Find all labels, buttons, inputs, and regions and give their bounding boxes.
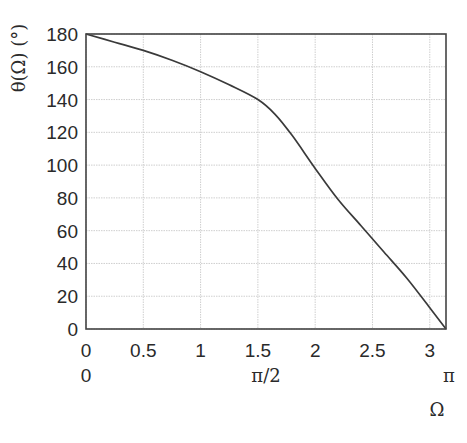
y-tick-label: 60	[57, 221, 78, 242]
y-tick-label: 40	[57, 253, 78, 274]
x-tick-label: 0.5	[130, 340, 156, 361]
x-axis-label: Ω	[430, 399, 445, 420]
x-tick-label: 1	[195, 340, 206, 361]
x-tick-label: 2	[310, 340, 321, 361]
y-tick-label: 0	[67, 319, 78, 340]
y-axis-ticks: 020406080100120140160180	[46, 24, 78, 340]
y-axis-label: θ(Ω) (°)	[8, 24, 29, 93]
x-secondary-tick-label: 0	[81, 365, 92, 386]
theta-curve	[86, 34, 446, 329]
x-secondary-tick-label: π	[443, 365, 455, 386]
x-secondary-tick-label: π/2	[251, 365, 280, 386]
chart: 020406080100120140160180 00.511.522.53 0…	[0, 0, 467, 443]
x-axis-ticks: 00.511.522.53	[81, 340, 435, 361]
y-tick-label: 120	[46, 122, 78, 143]
grid-lines	[86, 34, 446, 329]
x-axis-secondary-ticks: 0π/2π	[81, 365, 455, 386]
x-tick-label: 2.5	[359, 340, 385, 361]
y-tick-label: 100	[46, 155, 78, 176]
y-tick-label: 20	[57, 286, 78, 307]
y-tick-label: 80	[57, 188, 78, 209]
x-tick-label: 1.5	[245, 340, 271, 361]
x-tick-label: 0	[81, 340, 92, 361]
plot-frame	[86, 34, 446, 329]
y-tick-label: 160	[46, 57, 78, 78]
x-tick-label: 3	[424, 340, 435, 361]
y-tick-label: 180	[46, 24, 78, 45]
y-tick-label: 140	[46, 90, 78, 111]
